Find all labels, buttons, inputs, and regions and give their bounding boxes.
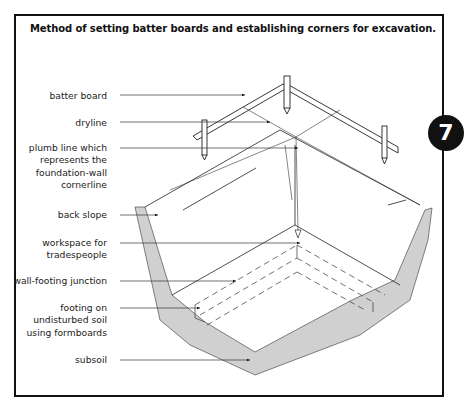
plumb-bob-icon — [295, 230, 301, 238]
excavation-outline — [145, 130, 420, 295]
batter-boards — [193, 76, 398, 164]
excavation-illustration — [0, 0, 467, 415]
